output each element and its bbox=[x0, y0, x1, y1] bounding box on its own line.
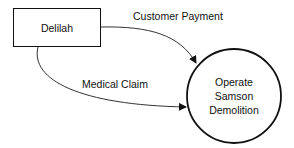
process-operate-samson-demolition: Operate Samson Demolition bbox=[186, 50, 282, 142]
process-label-line2: Samson bbox=[215, 89, 254, 103]
flow-customer-payment-arrow bbox=[101, 27, 196, 63]
process-label-line1: Operate bbox=[215, 75, 253, 89]
flow-medical-claim-arrow bbox=[37, 47, 186, 107]
flow-label-customer-payment: Customer Payment bbox=[133, 10, 223, 22]
external-entity-delilah: Delilah bbox=[13, 8, 101, 47]
process-label-line3: Demolition bbox=[209, 103, 259, 117]
flow-label-medical-claim: Medical Claim bbox=[82, 78, 148, 90]
entity-label: Delilah bbox=[41, 22, 73, 34]
